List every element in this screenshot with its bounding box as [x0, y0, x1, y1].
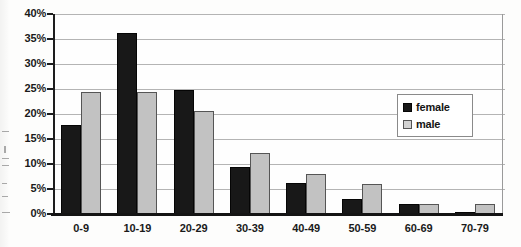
bar-group: [334, 14, 390, 214]
x-axis-tick-label: 20-29: [166, 222, 222, 234]
legend-label-female: female: [416, 102, 450, 113]
x-axis-tick-label: 40-49: [278, 222, 334, 234]
y-axis-tick-label: 35%: [4, 32, 46, 44]
x-axis-line: [51, 213, 503, 216]
y-axis-tick-label: 40%: [4, 7, 46, 19]
x-axis-tick-label: 30-39: [222, 222, 278, 234]
y-axis-tick-label: 5%: [4, 182, 46, 194]
x-axis-tick-label: 60-69: [391, 222, 447, 234]
bar-female-30-39: [230, 167, 250, 215]
y-axis-tick-label: 10%: [4, 157, 46, 169]
bar-male-30-39: [250, 153, 270, 215]
bar-female-50-59: [342, 199, 362, 214]
x-axis-tick-label: 10-19: [109, 222, 165, 234]
x-axis-tick-label: 70-79: [447, 222, 503, 234]
y-axis-tick-label: 20%: [4, 107, 46, 119]
bar-male-40-49: [306, 174, 326, 214]
x-axis-tick-label: 50-59: [334, 222, 390, 234]
y-axis-tick-label: 30%: [4, 57, 46, 69]
bar-male-20-29: [194, 111, 214, 215]
bar-group: [166, 14, 222, 214]
legend-swatch-female-icon: [403, 103, 412, 112]
bar-group: [278, 14, 334, 214]
chart-legend: female male: [397, 94, 473, 137]
y-axis-tick-label: 25%: [4, 82, 46, 94]
bar-female-0-9: [61, 125, 81, 215]
bar-female-20-29: [174, 90, 194, 214]
bar-group: [109, 14, 165, 214]
bar-male-10-19: [137, 92, 157, 215]
legend-swatch-male-icon: [403, 120, 412, 129]
legend-label-male: male: [416, 119, 440, 130]
x-axis-labels: 0-910-1920-2930-3940-4950-5960-6970-79: [53, 222, 503, 242]
bar-female-10-19: [117, 33, 137, 215]
legend-item-male: male: [403, 116, 472, 133]
y-axis-tick-label: 15%: [4, 132, 46, 144]
bar-male-0-9: [81, 92, 101, 215]
y-axis-tick-label: 0%: [4, 207, 46, 219]
bar-female-40-49: [286, 183, 306, 215]
legend-item-female: female: [403, 99, 472, 116]
x-axis-tick-label: 0-9: [53, 222, 109, 234]
bar-male-50-59: [362, 184, 382, 215]
bar-group: [222, 14, 278, 214]
bar-group: [53, 14, 109, 214]
chart-screenshot: 40%35%30%25%20%15%10%5%0% 0-910-1920-293…: [0, 0, 521, 247]
y-axis-labels: 40%35%30%25%20%15%10%5%0%: [0, 0, 46, 247]
